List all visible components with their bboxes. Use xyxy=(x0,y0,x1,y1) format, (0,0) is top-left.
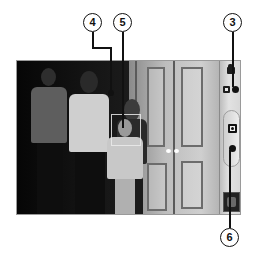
callout-4-leader xyxy=(110,47,112,92)
shutter-button[interactable] xyxy=(223,110,240,167)
callout-4: 4 xyxy=(83,13,102,32)
callout-3-leader xyxy=(232,32,234,87)
door-panel xyxy=(147,67,165,147)
callout-4-leader xyxy=(92,32,94,48)
camera-icon xyxy=(228,124,237,133)
last-photo-thumbnail[interactable] xyxy=(223,192,240,212)
callout-6: 6 xyxy=(220,228,239,247)
door-panel xyxy=(147,163,167,211)
callout-5-label: 5 xyxy=(119,17,125,28)
callout-4-leader xyxy=(92,47,112,49)
callout-5-leader xyxy=(122,32,124,128)
callout-6-label: 6 xyxy=(226,232,232,243)
door-panel xyxy=(181,67,203,147)
door-knob xyxy=(174,149,179,153)
camera-viewfinder[interactable] xyxy=(16,60,241,215)
callout-3-label: 3 xyxy=(229,17,235,28)
callout-4-label: 4 xyxy=(89,17,95,28)
door-seam-line xyxy=(173,61,175,214)
focus-box[interactable] xyxy=(111,114,141,146)
camera-mode-switch[interactable] xyxy=(232,86,239,93)
callout-6-leader xyxy=(229,150,231,228)
callout-3: 3 xyxy=(223,13,242,32)
callout-5: 5 xyxy=(113,13,132,32)
camera-mode-icon[interactable] xyxy=(223,86,230,93)
door-panel xyxy=(181,161,203,209)
door-knob xyxy=(166,149,171,153)
